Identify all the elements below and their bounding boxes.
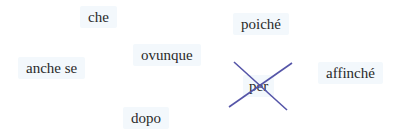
word-tile-per[interactable]: per [243,75,274,97]
word-tile-dopo[interactable]: dopo [123,107,169,129]
word-tile-anche-se[interactable]: anche se [18,57,85,79]
word-tile-poiche[interactable]: poiché [233,13,289,35]
word-tile-affinche[interactable]: affinché [318,62,383,84]
word-tile-che[interactable]: che [80,6,117,28]
word-tile-ovunque[interactable]: ovunque [133,44,201,66]
